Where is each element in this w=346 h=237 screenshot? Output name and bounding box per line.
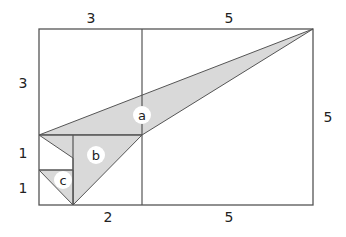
triangle-label-a: a [138,108,146,123]
dim-bottom-right: 5 [225,209,234,225]
triangle-label-c: c [59,173,66,188]
dim-left-upper: 3 [19,75,28,91]
geometry-diagram: a b c 3 5 3 1 1 5 2 5 [0,0,346,237]
dim-top-left: 3 [87,10,96,26]
dim-right: 5 [324,109,333,125]
dim-left-lower: 1 [19,180,28,196]
triangle-label-b: b [92,148,100,163]
dim-top-right: 5 [225,10,234,26]
triangle-a [39,29,313,135]
dim-left-middle: 1 [19,145,28,161]
dim-bottom-left: 2 [104,209,113,225]
